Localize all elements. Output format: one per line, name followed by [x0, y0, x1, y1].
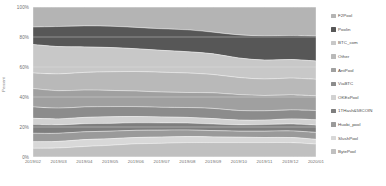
y-axis-tick: 20% [20, 125, 30, 130]
legend-item[interactable]: Huobi_pool [331, 118, 386, 132]
legend-item-label: BTC_com [338, 40, 358, 45]
legend-swatch-icon [331, 109, 336, 114]
x-axis: 2019/022019/032019/042019/052019/062019/… [33, 159, 316, 171]
y-axis-tick: 60% [20, 65, 30, 70]
legend-item-label: AntPool [338, 68, 354, 73]
x-axis-tick: 2019/06 [128, 159, 144, 164]
legend-swatch-icon [331, 122, 336, 127]
legend-item-label: Poolin [338, 27, 350, 32]
y-axis: Percent 0%20%40%60%80%100% [0, 0, 33, 165]
legend-item-label: ViaBTC [338, 81, 353, 86]
legend-item-label: Huobi_pool [338, 122, 360, 127]
x-axis-tick: 2019/08 [179, 159, 195, 164]
legend-item[interactable]: BTC_com [331, 36, 386, 50]
legend-item[interactable]: OKExPool [331, 91, 386, 105]
y-axis-title: Percent [1, 77, 6, 91]
x-axis-tick: 2019/04 [76, 159, 92, 164]
legend-item-label: F2Pool [338, 13, 352, 18]
legend-swatch-icon [331, 27, 336, 32]
legend-item-label: OKExPool [338, 95, 358, 100]
legend-swatch-icon [331, 14, 336, 19]
legend-item[interactable]: 1THash&58COIN [331, 104, 386, 118]
legend-item[interactable]: AntPool [331, 63, 386, 77]
stacked-area-chart: Percent 0%20%40%60%80%100% 2019/022019/0… [0, 0, 386, 186]
legend-item[interactable]: BytePool [331, 145, 386, 159]
legend-swatch-icon [331, 82, 336, 87]
plot-svg [33, 7, 316, 157]
x-axis-tick: 2019/05 [102, 159, 118, 164]
legend: F2PoolPoolinBTC_comOtherAntPoolViaBTCOKE… [331, 9, 386, 159]
x-axis-tick: 2020/01 [308, 159, 324, 164]
y-axis-tick: 40% [20, 95, 30, 100]
legend-item[interactable]: F2Pool [331, 9, 386, 23]
legend-item-label: SlushPool [338, 136, 358, 141]
legend-item[interactable]: Other [331, 50, 386, 64]
legend-swatch-icon [331, 136, 336, 141]
legend-item[interactable]: ViaBTC [331, 77, 386, 91]
x-axis-tick: 2019/02 [25, 159, 41, 164]
x-axis-tick: 2019/12 [282, 159, 298, 164]
plot-area [33, 7, 316, 157]
x-axis-tick: 2019/10 [231, 159, 247, 164]
y-axis-tick: 80% [20, 35, 30, 40]
x-axis-tick: 2019/09 [205, 159, 221, 164]
x-axis-tick: 2019/03 [51, 159, 67, 164]
legend-swatch-icon [331, 149, 336, 154]
legend-swatch-icon [331, 95, 336, 100]
legend-item[interactable]: SlushPool [331, 131, 386, 145]
x-axis-tick: 2019/07 [154, 159, 170, 164]
y-axis-tick: 100% [17, 5, 29, 10]
legend-item-label: 1THash&58COIN [338, 108, 372, 113]
legend-swatch-icon [331, 41, 336, 46]
legend-item[interactable]: Poolin [331, 23, 386, 37]
legend-item-label: BytePool [338, 149, 356, 154]
legend-swatch-icon [331, 68, 336, 73]
x-axis-tick: 2019/11 [257, 159, 273, 164]
legend-swatch-icon [331, 54, 336, 59]
legend-item-label: Other [338, 54, 349, 59]
